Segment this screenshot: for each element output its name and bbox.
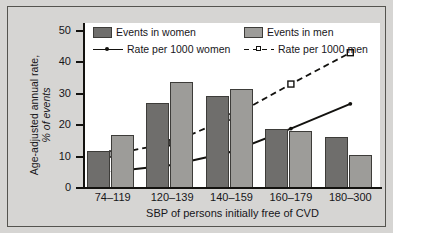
legend-label-events-women: Events in women [116,26,196,38]
y-tick-label-10: 10 [31,150,71,162]
y-tick-label-40: 40 [31,55,71,67]
chart-legend: Events in women Events in men Rate per 1… [93,26,369,64]
y-tick-mark-20 [76,124,83,126]
legend-item-events-men: Events in men [244,26,334,38]
y-tick-label-20: 20 [31,118,71,130]
legend-row-bars: Events in women Events in men [93,26,369,41]
legend-dashed-line-icon [244,44,274,55]
legend-item-events-women: Events in women [93,26,196,38]
figure-frame: Age-adjusted annual rate, % of events 50… [7,6,386,227]
legend-label-rate-men: Rate per 1000 men [278,43,368,55]
y-tick-mark-30 [76,93,83,95]
legend-item-rate-men: Rate per 1000 men [244,43,368,55]
bar-women-2 [206,96,229,188]
y-tick-mark-10 [76,156,83,158]
legend-item-rate-women: Rate per 1000 women [93,43,230,55]
y-tick-label-50: 50 [31,24,71,36]
legend-solid-line-icon [93,44,123,55]
bar-men-3 [289,131,312,188]
legend-row-lines: Rate per 1000 women Rate per 1000 men [93,43,369,58]
legend-label-rate-women: Rate per 1000 women [127,43,230,55]
bar-men-1 [170,82,193,188]
legend-swatch-men-icon [244,27,263,38]
y-axis-line [83,23,85,189]
bar-men-2 [230,89,253,188]
figure-panel: Age-adjusted annual rate, % of events 50… [0,0,393,233]
legend-swatch-women-icon [93,27,112,38]
bar-women-0 [87,151,110,188]
x-axis-title: SBP of persons initially free of CVD [83,207,382,219]
x-tick-label-4: 180–300 [310,191,390,203]
y-tick-label-30: 30 [31,87,71,99]
y-tick-mark-50 [76,30,83,32]
bar-women-4 [325,137,348,188]
bar-men-4 [349,155,372,188]
bar-men-0 [111,135,134,188]
x-axis-line [83,187,382,189]
legend-label-events-men: Events in men [267,26,334,38]
bar-women-1 [146,103,169,188]
y-tick-label-0: 0 [31,181,71,193]
y-tick-mark-0 [76,187,83,189]
y-tick-mark-40 [76,61,83,63]
bar-women-3 [265,129,288,188]
